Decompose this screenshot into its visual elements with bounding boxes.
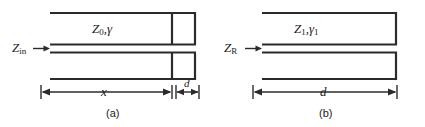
panel-a-dimension-d-label: d [184, 78, 190, 89]
panel-b-port-label: ZR [224, 41, 237, 56]
panel-a-step-discontinuity [172, 12, 195, 80]
panel-a-port-label: Zin [12, 41, 26, 56]
transmission-line-figure: Z0,γ Zin x d (a) Z1,γ1 ZR d (b) [0, 0, 425, 127]
panel-b-dimension-d-label: d [320, 85, 327, 98]
panel-b-port-subscript: R [231, 46, 237, 56]
panel-a-zin-arrow [33, 46, 50, 52]
panel-a-waveguide [50, 13, 196, 79]
panel-b-zr-arrow [245, 46, 262, 52]
figure-linework [0, 0, 425, 127]
panel-a-gamma-symbol: γ [107, 21, 112, 36]
panel-b-caption: (b) [319, 108, 332, 119]
panel-a-port-subscript: in [19, 46, 26, 56]
panel-a-caption: (a) [106, 108, 119, 119]
panel-a-impedance-label: Z0,γ [92, 22, 112, 37]
panel-a-dimension-x-label: x [101, 85, 107, 98]
panel-b-waveguide [262, 12, 397, 80]
panel-b-impedance-label: Z1,γ1 [294, 22, 319, 37]
panel-b-gamma-subscript: 1 [314, 27, 319, 37]
